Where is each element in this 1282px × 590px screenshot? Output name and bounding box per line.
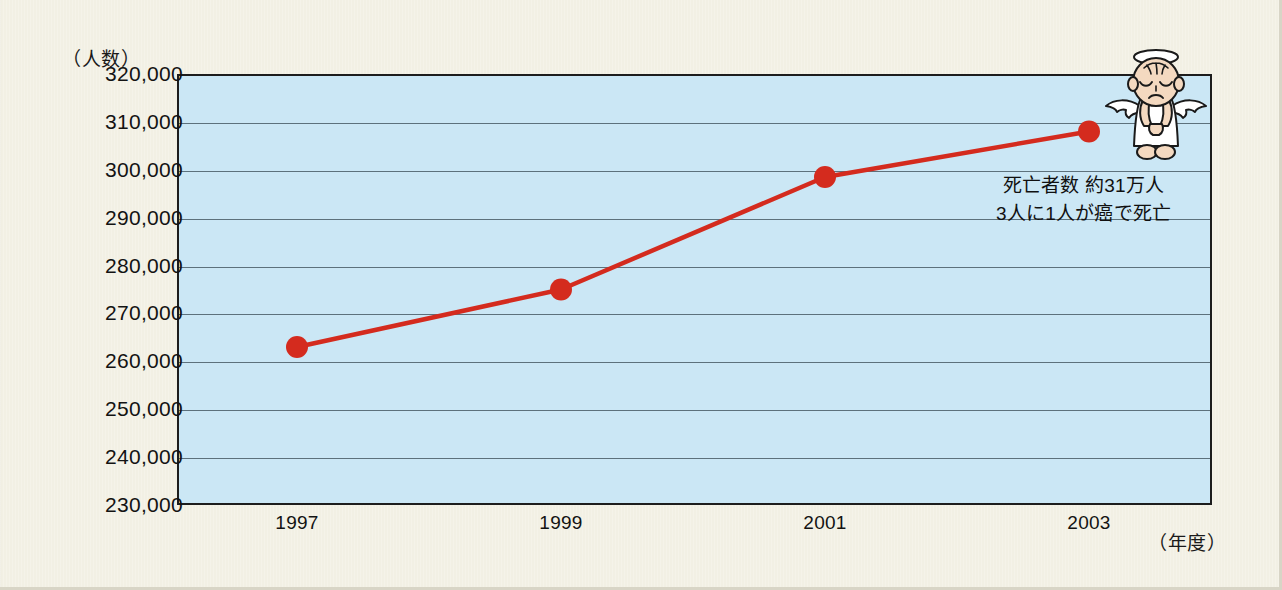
y-axis-tick-label: 290,000 <box>105 206 183 230</box>
annotation-line-2: 3人に1人が癌で死亡 <box>996 200 1171 228</box>
angel-right-foot-icon <box>1155 145 1175 159</box>
x-axis-tick-label: 2003 <box>1067 512 1110 534</box>
annotation-death-toll: 死亡者数 約31万人 3人に1人が癌で死亡 <box>996 172 1171 227</box>
angel-right-ear-icon <box>1174 77 1184 91</box>
gridline <box>179 314 1210 315</box>
gridlines <box>179 76 1210 503</box>
y-axis-tick-label: 230,000 <box>105 493 183 517</box>
y-axis-tick-label: 320,000 <box>105 62 183 86</box>
y-axis-tick-label: 280,000 <box>105 254 183 278</box>
gridline <box>179 410 1210 411</box>
x-axis-title: （年度） <box>1148 528 1226 555</box>
y-axis-tick-label: 260,000 <box>105 349 183 373</box>
gridline <box>179 362 1210 363</box>
chart-figure: （人数） （年度） 320,000310,000300,000290,00028… <box>0 0 1282 590</box>
angel-left-ear-icon <box>1128 77 1138 91</box>
angel-right-wing-icon <box>1172 100 1206 118</box>
angel-illustration <box>1104 44 1208 169</box>
x-axis-tick-label: 1997 <box>275 512 318 534</box>
y-axis-tick-label: 250,000 <box>105 397 183 421</box>
angel-left-wing-icon <box>1106 100 1140 118</box>
x-axis-tick-label: 2001 <box>803 512 846 534</box>
y-axis-tick-label: 310,000 <box>105 110 183 134</box>
gridline <box>179 267 1210 268</box>
annotation-line-1: 死亡者数 約31万人 <box>996 172 1171 200</box>
y-axis-tick-label: 270,000 <box>105 301 183 325</box>
y-axis-tick-label: 240,000 <box>105 445 183 469</box>
gridline <box>179 123 1210 124</box>
gridline <box>179 458 1210 459</box>
angel-hands-icon <box>1149 124 1163 135</box>
x-axis-tick-label: 1999 <box>539 512 582 534</box>
plot-area <box>177 74 1212 505</box>
y-axis-tick-label: 300,000 <box>105 158 183 182</box>
